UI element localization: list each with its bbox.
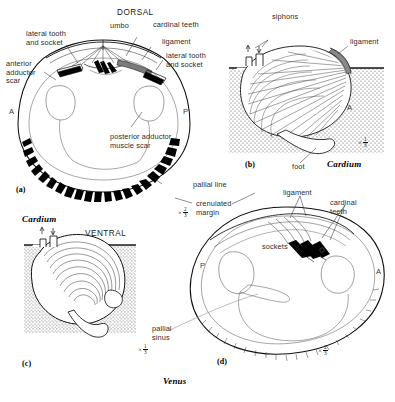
scale-b-fraction: 1 3 [363, 137, 368, 149]
label-c-genus: Cardium [22, 215, 56, 224]
scale-b-prefix: × [358, 139, 362, 147]
plate-caption-genus: Venus [163, 377, 187, 386]
label-d-sockets: sockets [262, 243, 288, 252]
scale-d-prefix: × [318, 347, 322, 355]
label-a-posterior-adductor: posterior adductor muscle scar [110, 133, 171, 150]
label-b-ligament: ligament [350, 38, 379, 47]
scale-c-prefix: × [138, 346, 142, 354]
label-b-tag: (b) [245, 161, 255, 170]
label-a-lateral-tooth-left: lateral tooth and socket [26, 30, 66, 47]
label-d-anterior-mark: A [376, 268, 381, 277]
label-d-pallial-sinus: pallial sinus [152, 325, 172, 342]
scale-c-denominator: 3 [143, 350, 148, 355]
scale-d-denominator: 3 [323, 351, 328, 356]
scale-a-fraction: 2 3 [183, 207, 188, 219]
figure-plate: DORSAL umbo cardinal teeth ligament late… [0, 0, 395, 402]
label-b-siphons: siphons [272, 13, 298, 22]
scale-a: × 2 3 [178, 207, 188, 219]
label-a-ligament: ligament [162, 38, 191, 47]
scale-b-denominator: 3 [363, 143, 368, 148]
label-d-tag: (d) [217, 358, 227, 367]
label-c-ventral: VENTRAL [85, 230, 126, 239]
scale-c: × 1 3 [138, 344, 148, 356]
label-d-cardinal-teeth: cardinal teeth [330, 199, 357, 216]
label-a-cardinal-teeth: cardinal teeth [153, 21, 199, 30]
label-d-ligament: ligament [283, 189, 312, 198]
label-d-posterior-mark: P [200, 262, 205, 271]
label-a-umbo: umbo [110, 22, 129, 31]
panel-d-artwork [170, 193, 384, 361]
label-a-dorsal: DORSAL [117, 9, 154, 18]
label-a-lateral-tooth-right: lateral tooth and socket [166, 52, 206, 69]
label-a-anterior-adductor: anterior adductor scar [6, 60, 36, 86]
label-a-crenulated-margin: crenulated margin [196, 200, 232, 217]
scale-c-fraction: 1 3 [143, 344, 148, 356]
scale-b: × 1 3 [358, 137, 368, 149]
label-a-pallial-line: pallial line [193, 181, 227, 190]
label-a-tag: (a) [16, 186, 26, 195]
scale-a-denominator: 3 [183, 213, 188, 218]
panel-c-artwork [24, 227, 136, 337]
scale-d: × 2 3 [318, 345, 328, 357]
label-c-tag: (c) [22, 360, 31, 369]
label-b-foot: foot [292, 163, 305, 172]
label-a-anterior-mark: A [9, 108, 14, 117]
scale-d-fraction: 2 3 [323, 345, 328, 357]
scale-a-prefix: × [178, 209, 182, 217]
label-b-anterior-mark: A [347, 104, 352, 113]
label-a-posterior-mark: P [183, 108, 188, 117]
label-b-genus: Cardium [327, 160, 361, 169]
